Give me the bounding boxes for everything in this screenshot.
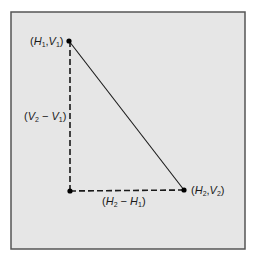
diagram-frame xyxy=(11,12,245,249)
coordinate-diagram: (H1,V1) (V2 − V1) (H2 − H1) (H2,V2) xyxy=(0,0,255,264)
corner-point xyxy=(67,188,72,193)
point-1 xyxy=(66,38,71,43)
point-2 xyxy=(181,187,186,192)
